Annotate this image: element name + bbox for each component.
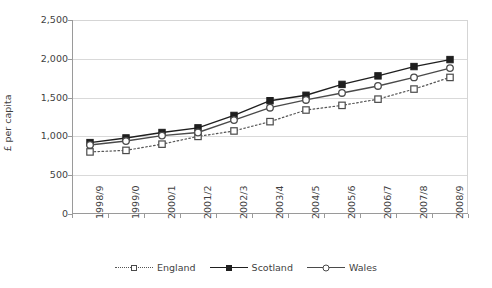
legend-label: England bbox=[157, 262, 196, 273]
x-tick-label: 2001/2 bbox=[202, 186, 213, 219]
legend-swatch bbox=[210, 263, 248, 273]
x-tick-label: 2007/8 bbox=[418, 186, 429, 219]
chart-container: £ per capita 05001,0001,5002,0002,500 19… bbox=[0, 0, 492, 288]
x-tick-mark bbox=[468, 214, 469, 218]
x-tick-mark bbox=[288, 214, 289, 218]
y-axis-title: £ per capita bbox=[2, 0, 13, 78]
legend-label: Scotland bbox=[252, 262, 293, 273]
x-tick-label: 2006/7 bbox=[382, 186, 393, 219]
x-tick-label: 2002/3 bbox=[238, 186, 249, 219]
legend-swatch bbox=[115, 263, 153, 273]
y-axis-title-label: £ per capita bbox=[2, 78, 13, 168]
y-tick-label: 2,500 bbox=[8, 15, 68, 25]
x-tick-mark bbox=[432, 214, 433, 218]
x-tick-label: 1998/9 bbox=[94, 186, 105, 219]
x-tick-mark bbox=[108, 214, 109, 218]
legend-item-scotland[interactable]: Scotland bbox=[210, 262, 293, 273]
x-tick-mark bbox=[72, 214, 73, 218]
x-tick-label: 2000/1 bbox=[166, 186, 177, 219]
x-tick-label: 1999/0 bbox=[130, 186, 141, 219]
x-tick-label: 2008/9 bbox=[454, 186, 465, 219]
x-tick-mark bbox=[396, 214, 397, 218]
x-tick-mark bbox=[180, 214, 181, 218]
y-tick-label: 500 bbox=[8, 170, 68, 180]
legend-marker-open-circle-icon bbox=[322, 264, 329, 271]
legend-marker-open-square-icon bbox=[131, 265, 137, 271]
legend-item-england[interactable]: England bbox=[115, 262, 196, 273]
legend-label: Wales bbox=[349, 262, 377, 273]
y-tick-label: 2,000 bbox=[8, 54, 68, 64]
x-tick-mark bbox=[216, 214, 217, 218]
legend-swatch bbox=[307, 263, 345, 273]
x-tick-label: 2005/6 bbox=[346, 186, 357, 219]
x-tick-label: 2004/5 bbox=[310, 186, 321, 219]
x-tick-mark bbox=[360, 214, 361, 218]
legend-marker-filled-square-icon bbox=[226, 265, 232, 271]
x-tick-mark bbox=[252, 214, 253, 218]
legend-item-wales[interactable]: Wales bbox=[307, 262, 377, 273]
faint-cropped-header bbox=[10, 0, 480, 8]
y-tick-label: 0 bbox=[8, 209, 68, 219]
y-tick-label: 1,500 bbox=[8, 93, 68, 103]
x-tick-mark bbox=[324, 214, 325, 218]
x-tick-mark bbox=[144, 214, 145, 218]
y-tick-label: 1,000 bbox=[8, 131, 68, 141]
chart-legend: EnglandScotlandWales bbox=[0, 262, 492, 273]
x-tick-label: 2003/4 bbox=[274, 186, 285, 219]
